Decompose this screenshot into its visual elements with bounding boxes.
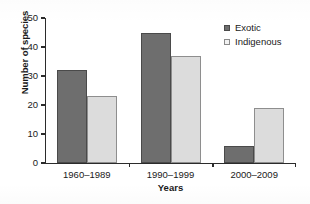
bar-indigenous-0 xyxy=(87,96,117,163)
x-axis-category-label: 2000–2009 xyxy=(230,169,278,180)
bar-exotic-1 xyxy=(141,33,171,164)
y-axis-tick-label: 40 xyxy=(27,42,38,52)
legend-swatch-indigenous-icon xyxy=(224,39,230,45)
y-axis-tick-label: 0 xyxy=(33,158,38,168)
y-axis-tick xyxy=(41,133,45,134)
x-axis-title: Years xyxy=(45,182,296,193)
y-axis-tick-label: 20 xyxy=(27,100,38,110)
x-axis-end-tick xyxy=(295,163,296,167)
legend-item-exotic[interactable]: Exotic xyxy=(224,21,281,35)
y-axis-tick-label: 10 xyxy=(27,129,38,139)
y-axis-tick-label: 30 xyxy=(27,71,38,81)
legend-swatch-exotic-icon xyxy=(224,25,230,31)
x-axis-separator-tick xyxy=(129,163,130,167)
y-axis-tick xyxy=(41,46,45,47)
legend-item-indigenous[interactable]: Indigenous xyxy=(224,35,281,49)
bar-exotic-2 xyxy=(224,146,254,163)
x-axis-category-label: 1960–1989 xyxy=(63,169,111,180)
bar-indigenous-1 xyxy=(171,56,201,163)
bar-chart: Number of species 01020304050 1960–19891… xyxy=(0,0,310,204)
y-axis-tick xyxy=(41,104,45,105)
y-axis-tick-label: 50 xyxy=(27,13,38,23)
legend-label-exotic: Exotic xyxy=(235,23,261,33)
y-axis-tick xyxy=(41,162,45,163)
x-axis-category-label: 1990–1999 xyxy=(147,169,195,180)
legend: Exotic Indigenous xyxy=(224,21,281,49)
x-axis-separator-tick xyxy=(212,163,213,167)
legend-label-indigenous: Indigenous xyxy=(235,37,281,47)
bar-indigenous-2 xyxy=(254,108,284,163)
bar-exotic-0 xyxy=(57,70,87,163)
y-axis-tick xyxy=(41,17,45,18)
x-axis-line xyxy=(45,163,296,164)
y-axis-tick xyxy=(41,75,45,76)
y-axis-line xyxy=(45,18,46,163)
